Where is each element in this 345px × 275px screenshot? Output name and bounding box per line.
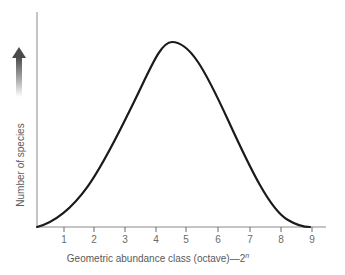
x-tick-label: 2 (91, 234, 97, 245)
x-tick-label: 7 (247, 234, 253, 245)
x-tick-label: 4 (153, 234, 159, 245)
x-tick-label: 9 (309, 234, 315, 245)
x-axis-label: Geometric abundance class (octave)—2n (67, 252, 249, 264)
chart-canvas (0, 0, 345, 275)
x-tick-label: 3 (122, 234, 128, 245)
x-tick-label: 6 (215, 234, 221, 245)
y-axis-label: Number of species (15, 123, 26, 206)
x-tick-label: 8 (278, 234, 284, 245)
x-tick-label: 5 (183, 234, 189, 245)
x-axis-ticks (64, 227, 312, 232)
distribution-curve (37, 42, 310, 227)
x-tick-label: 1 (61, 234, 67, 245)
y-increase-arrow-icon (12, 47, 26, 97)
